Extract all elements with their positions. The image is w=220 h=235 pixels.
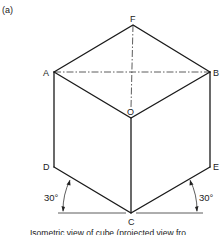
arrowhead-right-top — [190, 180, 194, 186]
vertex-label-e: E — [213, 162, 219, 172]
vertex-label-o: O — [127, 107, 134, 117]
arrowhead-right-bottom — [195, 206, 199, 212]
vertex-label-d: D — [43, 162, 50, 172]
figure-label: (a) — [2, 5, 13, 15]
figure-caption: Isometric view of cube (projected view f… — [30, 228, 186, 235]
vertex-label-b: B — [213, 68, 219, 78]
isometric-cube-diagram: (a) F A B O D E C 30° 30° Isometric view… — [0, 0, 220, 235]
hidden-line-f-o — [131, 25, 133, 108]
vertex-label-f: F — [130, 14, 136, 24]
vertex-label-a: A — [43, 68, 49, 78]
arrowhead-left-top — [67, 180, 71, 186]
bottom-edges — [54, 167, 210, 213]
angle-label-left: 30° — [44, 192, 59, 203]
angle-label-right: 30° — [199, 192, 214, 203]
vertex-label-c: C — [128, 217, 135, 227]
arrowhead-left-bottom — [62, 206, 66, 212]
